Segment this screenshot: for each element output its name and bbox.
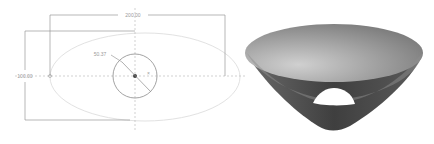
model-view <box>232 0 434 144</box>
radius-leader <box>122 62 151 92</box>
radius-dimension-label: 50.37 <box>94 51 107 57</box>
axis-tick: × <box>147 70 150 76</box>
bowl-render <box>232 0 434 144</box>
height-dimension-label: 100.00 <box>17 73 33 79</box>
sketch-canvas: 200.00 100.00 50.37 × <box>0 0 245 144</box>
cone-inner-surface <box>245 24 423 82</box>
ellipse-profile <box>50 33 240 121</box>
sketch-view: 200.00 100.00 50.37 × <box>0 0 245 144</box>
radius-leader-tail <box>111 55 122 62</box>
width-dimension-label: 200.00 <box>125 12 141 18</box>
